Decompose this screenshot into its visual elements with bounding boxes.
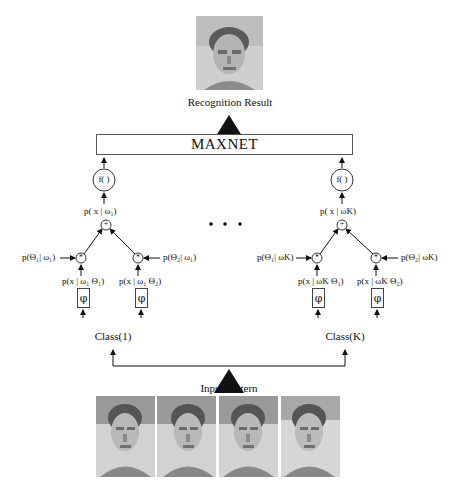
- classK-phi-box-2: φ: [371, 288, 384, 308]
- class1-prior-theta2: p(Θ₂| ω₁): [163, 252, 196, 262]
- class1-sum-likelihood-label: p( x | ω₁): [84, 206, 117, 216]
- classK-plus-node: +: [338, 219, 346, 228]
- input-pattern-label: Input Pattern: [179, 382, 279, 394]
- maxnet-label: MAXNET: [191, 136, 258, 153]
- input-face-photo-3: [219, 396, 278, 477]
- classK-sum-likelihood-label: p( x | ωK): [320, 206, 356, 216]
- classK-prior-theta2: p(Θ₂| ωK): [401, 252, 438, 262]
- class1-phi-box-1: φ: [77, 288, 90, 308]
- class1-mult-node-1: *: [77, 253, 85, 262]
- class1-phi-box-2: φ: [135, 288, 148, 308]
- maxnet-box: MAXNET: [96, 134, 353, 155]
- classK-likelihood-theta2: p(x | ωK Θ₂): [357, 276, 403, 286]
- input-face-photo-1: [96, 396, 155, 477]
- classK-label: Class(K): [320, 330, 370, 342]
- classK-likelihood-theta1: p(x | ωK Θ₁): [298, 276, 344, 286]
- class1-likelihood-theta1: p(x | ω₁ Θ₁): [62, 276, 104, 286]
- class1-likelihood-theta2: p(x | ω₁ Θ₂): [119, 276, 161, 286]
- classK-prior-theta1: p(Θ₁| ωK): [257, 252, 294, 262]
- class1-prior-theta1: p(Θ₁| ω₁): [22, 252, 55, 262]
- phi-symbol: φ: [80, 292, 88, 305]
- class1-mult-node-2: *: [134, 253, 142, 262]
- class1-label: Class(1): [88, 330, 138, 342]
- classK-mult-node-2: *: [372, 253, 380, 262]
- classK-phi-box-1: φ: [312, 288, 325, 308]
- input-face-photo-4: [281, 396, 340, 477]
- input-face-photo-2: [157, 396, 216, 477]
- class1-f-node-label: f( ): [96, 174, 112, 184]
- phi-symbol: φ: [138, 292, 146, 305]
- classK-f-node-label: f( ): [334, 174, 350, 184]
- phi-symbol: φ: [315, 292, 323, 305]
- phi-symbol: φ: [374, 292, 382, 305]
- classK-mult-node-1: *: [313, 253, 321, 262]
- class1-plus-node: +: [102, 219, 110, 228]
